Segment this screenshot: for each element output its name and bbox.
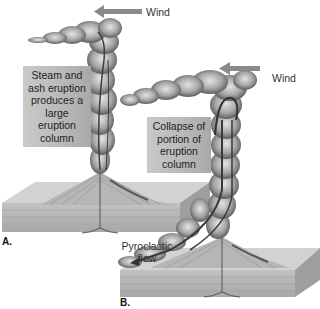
panel-a-wind-label: Wind xyxy=(146,6,170,18)
caption-line: eruption xyxy=(149,145,209,158)
caption-line: column xyxy=(25,132,89,145)
panel-b-letter: B. xyxy=(120,297,130,308)
caption-line: column xyxy=(149,158,209,171)
pyroclastic-flow-label: Pyroclastic flow xyxy=(118,240,176,264)
caption-line: ash eruption xyxy=(25,82,89,95)
panel-b-wind-label: Wind xyxy=(272,72,296,84)
caption-line: large eruption xyxy=(25,107,89,132)
caption-line: Steam and xyxy=(25,69,89,82)
flow-label-line: flow xyxy=(118,252,176,264)
caption-line: produces a xyxy=(25,94,89,107)
flow-label-line: Pyroclastic xyxy=(118,240,176,252)
panel-b-caption: Collapse of portion of eruption column xyxy=(147,117,211,173)
caption-line: portion of xyxy=(149,133,209,146)
caption-line: Collapse of xyxy=(149,120,209,133)
panel-a-wind-arrow xyxy=(94,5,142,18)
panel-a-letter: A. xyxy=(2,236,12,247)
panel-a-caption: Steam and ash eruption produces a large … xyxy=(23,66,91,147)
